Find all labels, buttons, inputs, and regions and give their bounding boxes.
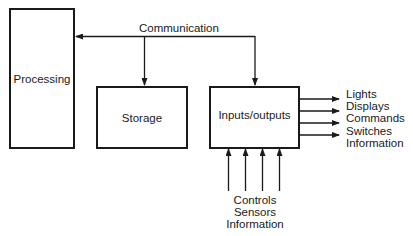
output-labels: Lights Displays Commands Switches Inform… bbox=[346, 88, 405, 149]
input-label: Controls bbox=[218, 194, 292, 206]
storage-box: Storage bbox=[96, 86, 188, 149]
output-label: Information bbox=[346, 137, 405, 149]
output-arrows bbox=[299, 99, 339, 135]
output-label: Displays bbox=[346, 100, 405, 112]
io-label: Inputs/outputs bbox=[218, 109, 290, 121]
processing-label: Processing bbox=[14, 73, 71, 85]
storage-label: Storage bbox=[122, 112, 162, 124]
output-label: Lights bbox=[346, 88, 405, 100]
input-arrows bbox=[229, 149, 280, 191]
input-label: Sensors bbox=[218, 206, 292, 218]
communication-label: Communication bbox=[139, 22, 219, 34]
processing-box: Processing bbox=[9, 8, 75, 149]
communication-bus bbox=[76, 36, 255, 85]
output-label: Commands bbox=[346, 112, 405, 124]
input-labels: Controls Sensors Information bbox=[218, 194, 292, 231]
input-label: Information bbox=[218, 218, 292, 230]
io-box: Inputs/outputs bbox=[209, 86, 300, 149]
output-label: Switches bbox=[346, 125, 405, 137]
